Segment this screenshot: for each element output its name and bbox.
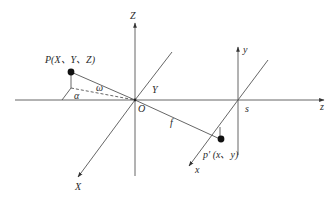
label-point-p-prime: p′ (x、y) [203,150,238,160]
focal-line-O-to-p-prime [135,100,220,139]
label-focal-length: f [170,118,173,128]
label-world-y-axis: Y [152,85,158,95]
diagram-svg [0,0,336,197]
label-optical-z-axis: z [320,102,324,112]
image-x-axis-line-upper [238,60,268,100]
point-P-dot [68,69,75,76]
label-angle-alpha: α [74,91,79,101]
label-angle-omega: ω [96,83,103,93]
alpha-leg [62,88,71,100]
label-image-y-axis: y [243,45,247,55]
label-world-x-axis: X [75,182,81,192]
label-image-center-s: s [245,104,249,114]
label-image-x-axis: x [195,165,199,175]
point-p-prime-dot [218,136,225,143]
world-x-axis-line [78,100,135,177]
camera-projection-diagram: Z P(X、Y、Z) ω α Y O f X y s z p′ (x、y) x [0,0,336,197]
origin-point [134,99,137,102]
label-point-P: P(X、Y、Z) [45,55,95,65]
label-origin: O [138,104,145,114]
label-world-z-axis: Z [130,11,136,21]
